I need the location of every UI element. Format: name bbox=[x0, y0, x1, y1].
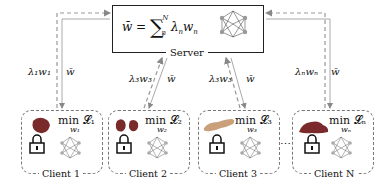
liver-icon bbox=[299, 121, 328, 133]
client-n-objective: min 𝓛ₙwₙ bbox=[329, 114, 366, 127]
client-n-icons bbox=[0, 0, 386, 186]
lock-icon bbox=[305, 135, 319, 153]
neural-network-icon bbox=[333, 137, 350, 158]
client-n-label: Client N bbox=[311, 168, 357, 179]
